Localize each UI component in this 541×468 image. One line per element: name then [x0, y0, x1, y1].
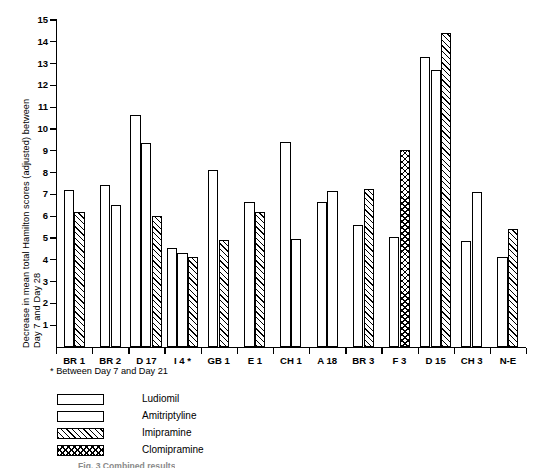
bar	[317, 202, 327, 347]
bar-group	[201, 20, 237, 347]
x-axis-tick	[237, 348, 238, 354]
legend-swatch	[57, 394, 104, 405]
bar	[188, 257, 198, 347]
x-axis-tick	[381, 348, 382, 354]
footnote: * Between Day 7 and Day 21	[50, 366, 168, 376]
bar	[64, 190, 74, 347]
y-axis-tick-label: 2	[26, 298, 48, 308]
bar	[364, 189, 374, 347]
bar-group	[345, 20, 381, 347]
bar	[152, 216, 162, 347]
x-axis-tick	[490, 348, 491, 354]
y-axis-tick-label: 12	[26, 80, 48, 90]
figure-caption: Fig. 3 Combined results	[78, 461, 175, 468]
bar	[420, 57, 430, 347]
bar-group	[128, 20, 164, 347]
bar	[244, 202, 254, 347]
y-axis-tick-label: 5	[26, 233, 48, 243]
legend-swatch	[57, 445, 104, 456]
x-axis-tick	[128, 348, 129, 354]
bar	[141, 143, 151, 347]
y-axis-title-line-1: Decrease in mean total Hamilton scores (…	[21, 99, 32, 348]
x-axis-tick	[345, 348, 346, 354]
y-axis-tick-label: 6	[26, 211, 48, 221]
x-axis-category-label: BR 2	[92, 356, 128, 366]
bar	[508, 229, 518, 347]
bar-group	[273, 20, 309, 347]
bar-group	[490, 20, 526, 347]
x-axis-line	[56, 347, 526, 348]
bar	[400, 150, 410, 347]
x-axis-category-label: F 3	[381, 356, 417, 366]
x-axis-category-label: N-E	[490, 356, 526, 366]
legend-label: Amitriptyline	[142, 410, 196, 421]
bar	[167, 248, 177, 347]
bar	[461, 241, 471, 347]
bar-group	[56, 20, 92, 347]
y-axis-tick-label: 14	[26, 37, 48, 47]
x-axis-tick	[164, 348, 165, 354]
y-axis-tick-label: 1	[26, 320, 48, 330]
bar	[389, 237, 399, 347]
bar-group	[92, 20, 128, 347]
bar	[255, 212, 265, 347]
bar	[74, 212, 84, 347]
bar-group	[418, 20, 454, 347]
x-axis-category-label: GB 1	[201, 356, 237, 366]
bar	[472, 192, 482, 347]
y-axis-tick-label: 3	[26, 277, 48, 287]
bar	[353, 225, 363, 347]
x-axis-tick	[273, 348, 274, 354]
y-axis-tick-label: 8	[26, 168, 48, 178]
bar	[327, 191, 337, 347]
x-axis-category-label: A 18	[309, 356, 345, 366]
x-axis-category-label: BR 3	[345, 356, 381, 366]
legend-swatch	[57, 428, 104, 439]
x-axis-tick	[92, 348, 93, 354]
bar	[441, 33, 451, 347]
bar	[208, 170, 218, 347]
bar-group	[164, 20, 200, 347]
bar	[111, 205, 121, 347]
x-axis-tick	[201, 348, 202, 354]
legend-label: Ludiomil	[142, 393, 179, 404]
bar	[497, 257, 507, 347]
legend-label: Imipramine	[142, 427, 191, 438]
y-axis-tick-label: 11	[26, 102, 48, 112]
x-axis-category-label: CH 1	[273, 356, 309, 366]
y-axis-tick-label: 10	[26, 124, 48, 134]
y-axis-tick-label: 7	[26, 189, 48, 199]
bar	[431, 70, 441, 347]
bar	[177, 253, 187, 347]
x-axis-category-label: CH 3	[454, 356, 490, 366]
bar-chart-figure: Decrease in mean total Hamilton scores (…	[0, 0, 541, 468]
x-axis-category-label: D 17	[128, 356, 164, 366]
y-axis-tick-label: 9	[26, 146, 48, 156]
bar-group	[237, 20, 273, 347]
x-axis-category-label: D 15	[418, 356, 454, 366]
plot-area	[56, 20, 526, 347]
bar-group	[309, 20, 345, 347]
x-axis-tick	[56, 348, 57, 354]
y-axis-tick-label: 4	[26, 255, 48, 265]
y-axis-tick-label: 13	[26, 59, 48, 69]
bar	[130, 115, 140, 347]
x-axis-tick	[526, 348, 527, 354]
x-axis-tick	[418, 348, 419, 354]
x-axis-tick	[454, 348, 455, 354]
bar-group	[381, 20, 417, 347]
x-axis-category-label: I 4 *	[164, 356, 200, 366]
bar	[100, 185, 110, 347]
x-axis-category-label: E 1	[237, 356, 273, 366]
x-axis-tick	[309, 348, 310, 354]
legend-swatch	[57, 411, 104, 422]
bar	[219, 240, 229, 347]
x-axis-category-label: BR 1	[56, 356, 92, 366]
bar-group	[454, 20, 490, 347]
legend-label: Clomipramine	[142, 444, 204, 455]
bar	[291, 239, 301, 347]
bar	[280, 142, 290, 347]
y-axis-tick-label: 15	[26, 15, 48, 25]
